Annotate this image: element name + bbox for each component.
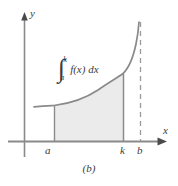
integral-limits: ka [62, 56, 69, 82]
plot-canvas [0, 0, 178, 186]
x-tick-label-k: k [120, 145, 125, 156]
figure-caption: (b) [0, 162, 178, 174]
x-axis-arrowhead [158, 138, 168, 146]
x-tick-label-b: b [137, 145, 143, 156]
shaded-integral-region [54, 74, 123, 142]
y-axis-arrowhead [21, 12, 28, 21]
integral-figure: y x a k b ∫kaf(x) dx (b) [0, 0, 178, 186]
y-axis-label: y [30, 8, 35, 19]
integrand-expression: f(x) dx [70, 64, 98, 75]
x-axis-label: x [163, 125, 168, 136]
integral-upper-limit: k [63, 56, 67, 64]
x-tick-label-a: a [45, 145, 51, 156]
integral-lower-limit: a [60, 74, 64, 82]
integral-annotation: ∫kaf(x) dx [58, 56, 99, 82]
